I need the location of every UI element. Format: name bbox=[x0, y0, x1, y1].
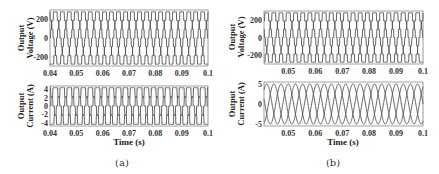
x-tick-label: 0.05 bbox=[281, 129, 295, 138]
y-tick-label: -2 bbox=[41, 110, 48, 119]
x-tick-label: 0.1 bbox=[418, 67, 428, 76]
panel-a-caption: (a) bbox=[115, 157, 129, 168]
y-tick-label: 4 bbox=[44, 85, 48, 94]
y-tick-label: -4 bbox=[41, 119, 48, 128]
x-tick-label: 0.09 bbox=[389, 129, 403, 138]
x-tick-label: 0.09 bbox=[389, 67, 403, 76]
x-tick-label: 0.04 bbox=[43, 69, 57, 78]
figure: 0.040.050.060.070.080.090.1-2000200 0.04… bbox=[0, 0, 439, 174]
x-tick-label: 0.1 bbox=[203, 129, 213, 138]
y-tick-label: 200 bbox=[250, 16, 262, 25]
x-tick-label: 0.05 bbox=[281, 67, 295, 76]
x-tick-label: 0.06 bbox=[96, 129, 110, 138]
panel-b-current-plot: 0.050.060.070.080.090.1-505 bbox=[255, 80, 428, 138]
y-tick-label: 2 bbox=[44, 94, 48, 103]
panel-b-voltage-ylabel-unit: Voltage (V) bbox=[236, 16, 246, 57]
panel-b-current-ylabel-unit: Current (A) bbox=[236, 82, 246, 126]
y-tick-label: 0 bbox=[44, 102, 48, 111]
x-tick-label: 0.08 bbox=[148, 69, 162, 78]
x-tick-label: 0.1 bbox=[418, 129, 428, 138]
y-tick-label: 0 bbox=[44, 34, 48, 43]
y-tick-label: 5 bbox=[258, 80, 262, 89]
panel-a-current-ylabel-unit: Current (A) bbox=[25, 84, 35, 128]
x-tick-label: 0.07 bbox=[122, 69, 136, 78]
panel-a-voltage-plot: 0.040.050.060.070.080.090.1-2000200 bbox=[33, 10, 213, 78]
panel-b-xlabel: Time (s) bbox=[327, 137, 359, 147]
x-tick-label: 0.08 bbox=[148, 129, 162, 138]
y-tick-label: 200 bbox=[36, 15, 48, 24]
y-tick-label: -200 bbox=[247, 51, 262, 60]
x-tick-label: 0.08 bbox=[362, 129, 376, 138]
x-tick-label: 0.07 bbox=[335, 67, 349, 76]
x-tick-label: 0.05 bbox=[69, 69, 83, 78]
x-tick-label: 0.09 bbox=[175, 129, 189, 138]
x-tick-label: 0.04 bbox=[43, 129, 57, 138]
x-tick-label: 0.08 bbox=[362, 67, 376, 76]
y-tick-label: -200 bbox=[33, 53, 48, 62]
x-tick-label: 0.06 bbox=[96, 69, 110, 78]
panel-b-voltage-plot: 0.050.060.070.080.090.1-2000200 bbox=[247, 11, 428, 76]
x-tick-label: 0.1 bbox=[203, 69, 213, 78]
y-tick-label: -5 bbox=[255, 120, 262, 129]
y-tick-label: 0 bbox=[258, 34, 262, 43]
panel-a-xlabel: Time (s) bbox=[113, 137, 145, 147]
x-tick-label: 0.05 bbox=[69, 129, 83, 138]
panel-b-caption: (b) bbox=[326, 157, 340, 168]
x-tick-label: 0.06 bbox=[308, 129, 322, 138]
x-tick-label: 0.09 bbox=[175, 69, 189, 78]
x-tick-label: 0.06 bbox=[308, 67, 322, 76]
panel-a-current-plot: 0.040.050.060.070.080.090.1-4-2024 bbox=[41, 85, 213, 138]
y-tick-label: 0 bbox=[258, 100, 262, 109]
panel-a-voltage-ylabel-unit: Voltage (V) bbox=[25, 17, 35, 58]
